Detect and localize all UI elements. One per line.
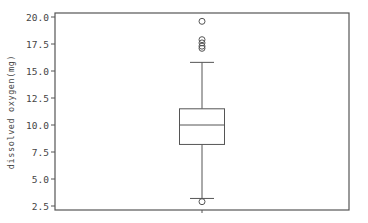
y-tick-label: 10.0 — [26, 120, 49, 131]
y-tick-label: 2.5 — [32, 201, 49, 212]
y-tick-label: 15.0 — [26, 66, 49, 77]
y-tick-label: 20.0 — [26, 12, 49, 23]
outlier-point — [199, 199, 205, 205]
y-tick-label: 17.5 — [26, 39, 49, 50]
y-tick-label: 5.0 — [32, 174, 49, 185]
y-axis-ticks: 2.55.07.510.012.515.017.520.0 — [26, 12, 202, 214]
box-plot — [180, 62, 225, 198]
iqr-box — [180, 109, 225, 145]
outlier-point — [199, 18, 205, 24]
y-axis-label: dissolved oxygen(mg) — [6, 55, 16, 169]
y-tick-label: 7.5 — [32, 147, 49, 158]
y-tick-label: 12.5 — [26, 93, 49, 104]
box-plot-chart: 2.55.07.510.012.515.017.520.0 dissolved … — [0, 0, 368, 223]
